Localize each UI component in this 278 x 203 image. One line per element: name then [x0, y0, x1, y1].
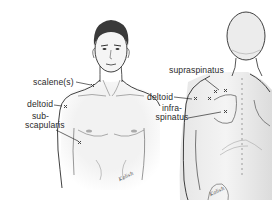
- label-supraspinatus: supraspinatus: [169, 66, 224, 75]
- label-infraspinatus-line2: spinatus: [154, 113, 190, 122]
- label-subscapularis: sub- scapularis: [25, 112, 56, 130]
- label-infraspinatus: infra- spinatus: [154, 104, 190, 122]
- label-subscapularis-line2: scapularis: [25, 121, 56, 130]
- back-figure: [180, 12, 272, 200]
- anatomy-diagram: scalene(s) deltoid sub- scapularis supra…: [0, 0, 278, 203]
- label-deltoid-back: deltoid: [147, 93, 173, 102]
- label-scalenes: scalene(s): [33, 78, 74, 87]
- label-deltoid-front: deltoid: [27, 100, 53, 109]
- front-figure: [57, 20, 160, 190]
